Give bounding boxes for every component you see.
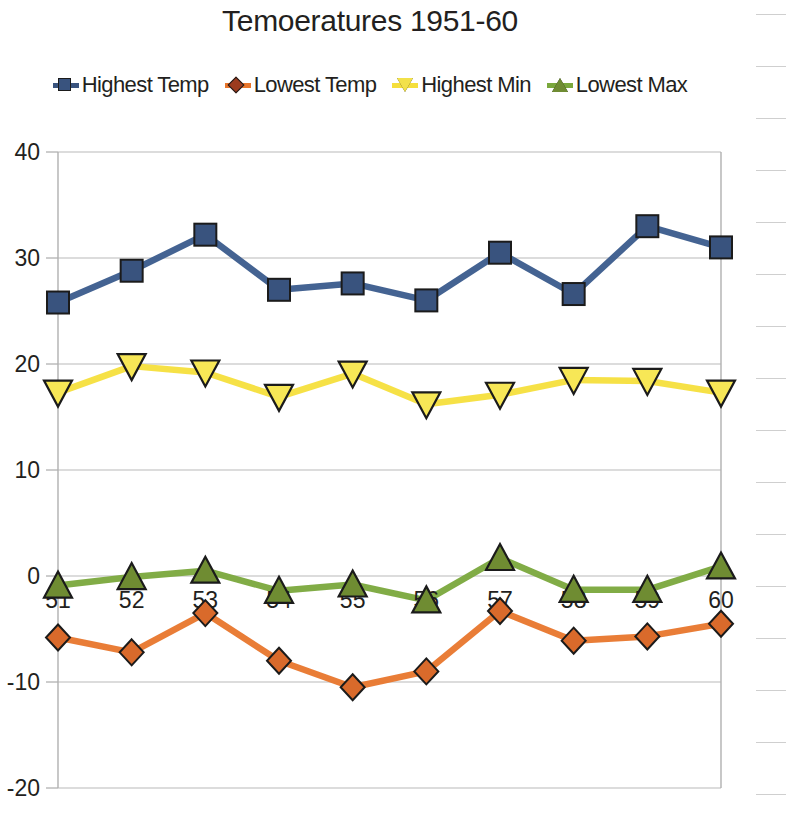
series-line-highest-temp [58, 226, 721, 302]
plot-svg: 403020100-10-20 51525354555657585960 [0, 0, 760, 817]
page-rule-line [756, 14, 786, 15]
data-point-highest-temp-56[interactable] [415, 289, 437, 311]
data-point-lowest-temp-59[interactable] [635, 623, 659, 649]
y-axis-tick-labels: 403020100-10-20 [7, 139, 40, 801]
data-point-lowest-temp-51[interactable] [46, 624, 70, 650]
data-point-lowest-temp-55[interactable] [341, 674, 365, 700]
data-point-highest-temp-54[interactable] [268, 279, 290, 301]
data-point-lowest-max-60[interactable] [707, 552, 735, 578]
series-line-lowest-max [58, 558, 721, 600]
page-ruled-lines [756, 0, 786, 817]
page-rule-line [756, 794, 786, 795]
page-rule-line [756, 638, 786, 639]
data-point-highest-temp-60[interactable] [710, 236, 732, 258]
page-rule-line [756, 118, 786, 119]
page-rule-line [756, 586, 786, 587]
data-point-lowest-temp-60[interactable] [709, 611, 733, 637]
series-markers [44, 215, 735, 700]
page-rule-line [756, 274, 786, 275]
page-rule-line [756, 222, 786, 223]
y-axis-tick-label: 0 [27, 563, 40, 589]
data-point-highest-min-54[interactable] [265, 385, 293, 411]
y-axis-tick-label: -20 [7, 775, 40, 801]
x-axis-tick-label: 52 [119, 587, 145, 613]
page-rule-line [756, 534, 786, 535]
data-point-highest-temp-57[interactable] [489, 242, 511, 264]
data-point-lowest-temp-58[interactable] [562, 628, 586, 654]
page-rule-line [756, 430, 786, 431]
data-point-highest-temp-51[interactable] [47, 292, 69, 314]
page-rule-line [756, 742, 786, 743]
page-rule-line [756, 326, 786, 327]
series-lines [58, 226, 721, 687]
data-point-highest-temp-55[interactable] [342, 272, 364, 294]
data-point-lowest-temp-52[interactable] [120, 639, 144, 665]
data-point-highest-temp-53[interactable] [194, 224, 216, 246]
page-rule-line [756, 690, 786, 691]
y-axis-tick-label: 20 [14, 351, 40, 377]
y-axis-tick-label: 30 [14, 245, 40, 271]
plot-area: 403020100-10-20 51525354555657585960 [0, 0, 760, 817]
page-rule-line [756, 66, 786, 67]
y-axis-tick-label: 10 [14, 457, 40, 483]
data-point-lowest-max-57[interactable] [486, 544, 514, 570]
data-point-highest-min-51[interactable] [44, 381, 72, 407]
data-point-highest-temp-58[interactable] [563, 283, 585, 305]
y-axis-tick-label: -10 [7, 669, 40, 695]
temperature-line-chart: Temoeratures 1951-60 Highest TempLowest … [0, 0, 760, 817]
y-axis-tick-label: 40 [14, 139, 40, 165]
page-rule-line [756, 378, 786, 379]
series-line-lowest-temp [58, 611, 721, 687]
page-rule-line [756, 482, 786, 483]
x-axis-tick-label: 60 [708, 587, 734, 613]
data-point-highest-temp-59[interactable] [636, 215, 658, 237]
page-rule-line [756, 170, 786, 171]
data-point-highest-temp-52[interactable] [121, 260, 143, 282]
series-line-highest-min [58, 366, 721, 404]
